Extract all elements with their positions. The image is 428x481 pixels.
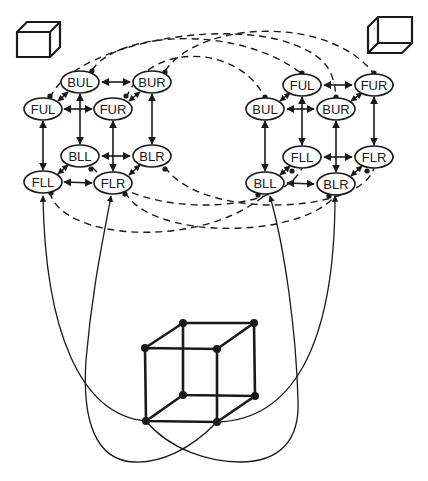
node-right-bur: BUR bbox=[317, 98, 355, 120]
node-left-fur: FUR bbox=[94, 98, 132, 120]
node-label: BLR bbox=[139, 149, 164, 164]
node-label: BUL bbox=[67, 75, 92, 90]
node-right-fll: FLL bbox=[283, 146, 321, 168]
node-label: BUR bbox=[322, 102, 349, 117]
node-left-bur: BUR bbox=[133, 71, 171, 93]
node-label: BUL bbox=[252, 102, 277, 117]
node-label: FUR bbox=[100, 102, 127, 117]
cube-icon-right bbox=[368, 17, 412, 53]
inhibitory-connections bbox=[50, 31, 374, 232]
necker-cube bbox=[141, 319, 259, 426]
right-network-nodes: FUL FUR BUL BUR FLL FLR BLL BLR bbox=[246, 74, 393, 195]
left-network-edges bbox=[43, 82, 152, 183]
node-right-blr: BLR bbox=[317, 173, 355, 195]
node-label: FUR bbox=[361, 78, 388, 93]
node-right-flr: FLR bbox=[355, 146, 393, 168]
node-label: BUR bbox=[138, 75, 165, 90]
node-left-bll: BLL bbox=[61, 145, 99, 167]
node-right-ful: FUL bbox=[283, 74, 321, 96]
node-label: FLR bbox=[362, 150, 387, 165]
node-right-fur: FUR bbox=[355, 74, 393, 96]
cube-icon-left bbox=[17, 22, 60, 57]
right-network-edges bbox=[265, 85, 374, 184]
node-label: FLL bbox=[32, 175, 54, 190]
node-label: FLR bbox=[101, 176, 126, 191]
necker-cube-network-diagram: BUL BUR FUL FUR BLL BLR FLL FLR bbox=[0, 0, 428, 481]
node-left-blr: BLR bbox=[133, 145, 171, 167]
node-label: FUL bbox=[31, 102, 56, 117]
node-label: FLL bbox=[291, 150, 313, 165]
node-left-flr: FLR bbox=[94, 172, 132, 194]
node-right-bul: BUL bbox=[246, 98, 284, 120]
left-network-nodes: BUL BUR FUL FUR BLL BLR FLL FLR bbox=[24, 71, 171, 194]
node-left-fll: FLL bbox=[24, 171, 62, 193]
node-label: BLL bbox=[68, 149, 91, 164]
node-label: BLL bbox=[253, 176, 276, 191]
node-left-bul: BUL bbox=[61, 71, 99, 93]
node-label: FUL bbox=[290, 78, 315, 93]
node-label: BLR bbox=[323, 177, 348, 192]
node-left-ful: FUL bbox=[24, 98, 62, 120]
node-right-bll: BLL bbox=[246, 172, 284, 194]
